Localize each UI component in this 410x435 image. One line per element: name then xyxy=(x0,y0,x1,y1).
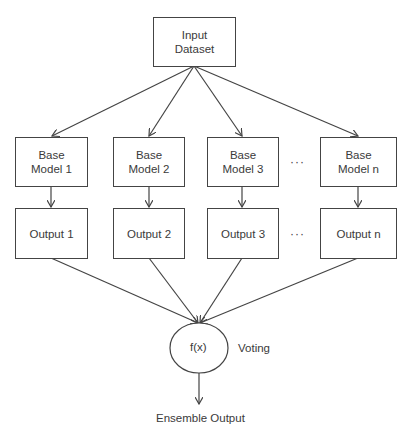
output-2-node: Output 2 xyxy=(113,208,185,259)
base-model-label-line2: Model 1 xyxy=(31,162,72,176)
base-model-label-line1: Base xyxy=(338,148,379,162)
base-model-label-line1: Base xyxy=(129,148,170,162)
base-model-label-line1: Base xyxy=(223,148,264,162)
output-label: Output 3 xyxy=(221,227,265,241)
arrow-input-to-model-1 xyxy=(52,66,194,136)
output-label: Output n xyxy=(336,227,380,241)
output-3-node: Output 3 xyxy=(207,208,279,259)
base-model-label-line2: Model n xyxy=(338,162,379,176)
arrow-output-n-to-combiner xyxy=(200,258,358,323)
arrow-output-3-to-combiner xyxy=(200,258,242,323)
output-label: Output 2 xyxy=(127,227,171,241)
models-ellipsis: ··· xyxy=(290,155,305,169)
arrow-output-1-to-combiner xyxy=(51,258,198,323)
ensemble-output-label: Ensemble Output xyxy=(156,412,245,424)
arrow-output-2-to-combiner xyxy=(149,258,198,323)
outputs-ellipsis: ··· xyxy=(290,227,305,241)
input-label-line2: Dataset xyxy=(175,42,215,56)
base-model-3-node: Base Model 3 xyxy=(207,137,279,187)
output-n-node: Output n xyxy=(320,208,397,259)
input-dataset-node: Input Dataset xyxy=(153,17,236,67)
base-model-label-line2: Model 2 xyxy=(129,162,170,176)
voting-annotation: Voting xyxy=(238,342,270,354)
output-label: Output 1 xyxy=(29,227,73,241)
base-model-1-node: Base Model 1 xyxy=(15,137,88,187)
base-model-n-node: Base Model n xyxy=(320,137,397,187)
base-model-label-line1: Base xyxy=(31,148,72,162)
output-1-node: Output 1 xyxy=(15,208,88,259)
input-label-line1: Input xyxy=(175,28,215,42)
combiner-label: f(x) xyxy=(190,341,207,353)
base-model-label-line2: Model 3 xyxy=(223,162,264,176)
base-model-2-node: Base Model 2 xyxy=(113,137,185,187)
